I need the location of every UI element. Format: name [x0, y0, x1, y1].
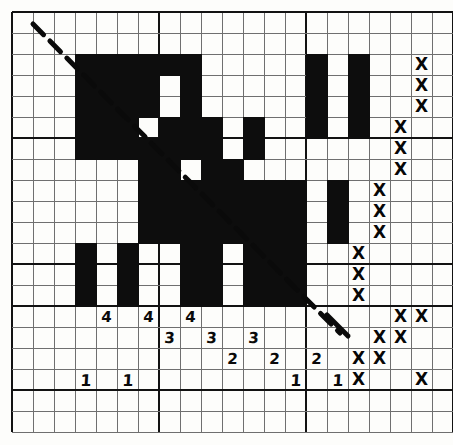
x-mark: X — [390, 329, 411, 346]
x-mark: X — [411, 371, 432, 388]
x-mark: X — [348, 287, 369, 304]
x-mark: X — [411, 77, 432, 94]
x-mark: X — [411, 98, 432, 115]
x-mark: X — [369, 329, 390, 346]
x-mark: X — [411, 56, 432, 73]
x-mark: X — [348, 245, 369, 262]
x-mark: X — [369, 224, 390, 241]
x-mark: X — [369, 350, 390, 367]
x-mark: X — [369, 182, 390, 199]
graph-paper-figure: 4443332221111 XXXXXXXXXXXXXXXXXXXX — [0, 0, 453, 445]
x-mark: X — [411, 308, 432, 325]
x-mark: X — [390, 161, 411, 178]
x-mark: X — [390, 308, 411, 325]
x-mark: X — [390, 119, 411, 136]
x-mark: X — [390, 140, 411, 157]
x-mark: X — [348, 371, 369, 388]
x-mark: X — [348, 266, 369, 283]
x-mark: X — [348, 350, 369, 367]
x-mark: X — [369, 203, 390, 220]
x-marks-layer: XXXXXXXXXXXXXXXXXXXX — [0, 0, 453, 445]
